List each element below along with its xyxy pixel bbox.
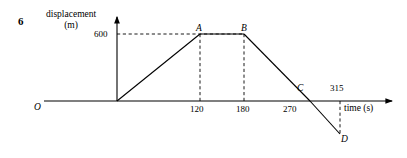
figure-container: 6 displacement (m) time (s) 600 120 180 … xyxy=(0,0,407,158)
graph-segment-c-d xyxy=(310,101,340,134)
graph-segment-o-a xyxy=(117,34,200,101)
displacement-time-graph xyxy=(0,0,407,158)
graph-segment-b-c xyxy=(244,34,310,101)
